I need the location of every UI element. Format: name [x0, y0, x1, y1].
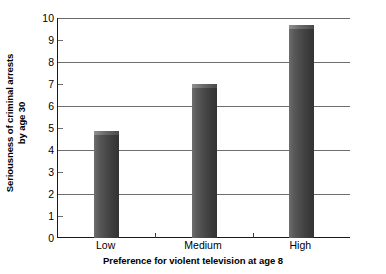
y-axis-title-text: Seriousness of criminal arrests by age 3… [4, 54, 27, 192]
y-axis-tick-label: 5 [28, 123, 54, 134]
y-axis-title-line-1: Seriousness of criminal arrests [4, 54, 15, 192]
y-axis-tick-mark [58, 172, 63, 173]
y-axis-tick-mark [58, 216, 63, 217]
bar-chart-figure: Seriousness of criminal arrests by age 3… [0, 0, 386, 274]
x-axis-title: Preference for violent television at age… [0, 255, 386, 266]
y-axis-tick-label: 1 [28, 211, 54, 222]
y-axis-tick-label: 4 [28, 145, 54, 156]
x-axis-tick-label: Low [96, 239, 115, 252]
bar [94, 131, 119, 238]
y-axis-title-line-2: by age 30 [15, 54, 27, 192]
bar-top-highlight [94, 131, 119, 135]
x-axis-tick-mark [155, 233, 156, 238]
plot-area [57, 18, 350, 238]
y-axis-tick-labels: 012345678910 [28, 0, 54, 246]
y-axis-tick-label: 6 [28, 101, 54, 112]
y-axis-tick-label: 8 [28, 57, 54, 68]
bar-top-highlight [289, 25, 314, 29]
x-axis-tick-label: Medium [184, 239, 221, 252]
x-axis-tick-mark [253, 233, 254, 238]
y-axis-tick-label: 0 [28, 233, 54, 244]
y-axis-tick-label: 3 [28, 167, 54, 178]
y-axis-tick-mark [58, 84, 63, 85]
y-axis-tick-mark [58, 128, 63, 129]
bar-top-highlight [192, 84, 217, 88]
y-axis-tick-label: 2 [28, 189, 54, 200]
y-axis-tick-mark [58, 40, 63, 41]
bar [289, 25, 314, 238]
y-axis-tick-label: 10 [28, 13, 54, 24]
x-axis-tick-labels: LowMediumHigh [57, 239, 350, 255]
bar [192, 84, 217, 238]
x-axis-tick-label: High [290, 239, 312, 252]
y-axis-tick-label: 7 [28, 79, 54, 90]
y-axis-title: Seriousness of criminal arrests by age 3… [0, 0, 30, 246]
plot-top-border [58, 18, 350, 19]
y-axis-tick-label: 9 [28, 35, 54, 46]
